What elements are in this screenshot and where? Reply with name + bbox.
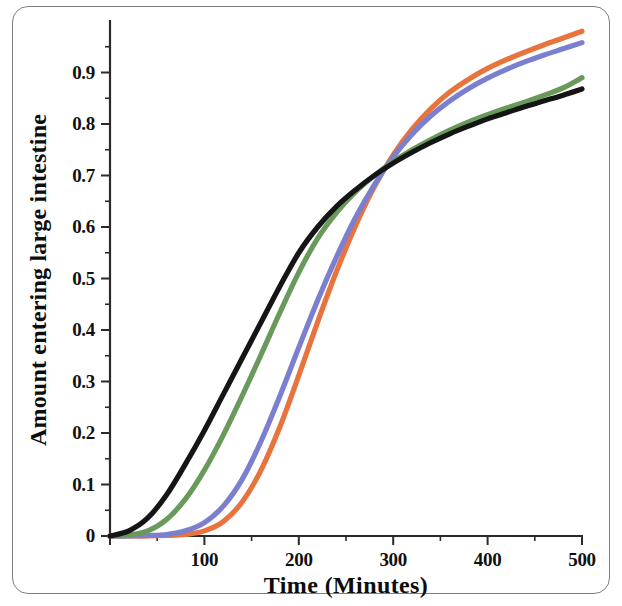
x-tick-label: 200 (285, 549, 313, 571)
axes-group (101, 20, 583, 545)
y-tick-label: 0.9 (0, 62, 95, 84)
plot-area: 00.10.20.30.40.50.60.70.80.9 10020030040… (0, 0, 622, 606)
x-tick-label: 500 (568, 549, 596, 571)
x-tick-label: 300 (379, 549, 407, 571)
y-tick-label: 0.1 (0, 474, 95, 496)
y-axis-title: Amount entering large intestine (25, 114, 52, 446)
curve-black (110, 89, 582, 536)
x-axis-title: Time (Minutes) (264, 572, 428, 599)
series-group (110, 31, 582, 536)
x-tick-label: 100 (191, 549, 219, 571)
chart-page: 00.10.20.30.40.50.60.70.80.9 10020030040… (0, 0, 622, 606)
curve-blue (110, 43, 582, 536)
x-tick-label: 400 (474, 549, 502, 571)
y-tick-label: 0 (0, 525, 95, 547)
plot-svg (0, 0, 622, 606)
